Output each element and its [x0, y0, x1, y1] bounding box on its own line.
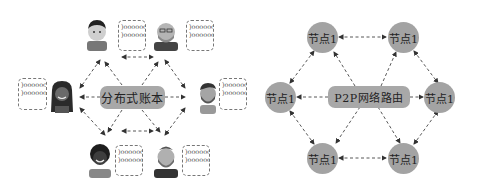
- ledger-document-right: )oooooc )oooooo(: [219, 78, 247, 110]
- network-node-top-right: 节点1: [388, 22, 419, 53]
- participant-avatar-bottom-left: [86, 142, 114, 178]
- participant-avatar-bottom-right: [151, 142, 181, 178]
- edge-right-to-bottom-right: [165, 108, 185, 135]
- ledger-document-bottom-left: )oooooc )oooooo(: [115, 145, 143, 176]
- ledger-line: )oooooo(: [21, 89, 45, 97]
- ledger-line: )oooooc: [121, 23, 144, 31]
- ledger-line: )oooooc: [118, 148, 141, 156]
- ledger-line: )oooooc: [21, 81, 45, 89]
- p2p-routing-label: P2P网络路由: [328, 86, 410, 108]
- ledger-line: )oooooo(: [185, 156, 208, 164]
- ledger-line: )oooooc: [185, 148, 208, 156]
- distributed-ledger-label: 分布式账本: [100, 86, 165, 109]
- ledger-document-top-left: )oooooc )oooooo(: [118, 20, 146, 51]
- network-node-bottom-right: 节点1: [388, 143, 419, 174]
- ledger-line: )oooooo(: [189, 31, 212, 39]
- network-node-top-left: 节点1: [307, 22, 338, 53]
- edge-top-right-to-right: [165, 60, 185, 88]
- ledger-document-left: )oooooc )oooooo(: [18, 78, 47, 110]
- edge-left-to-bottom-left: [80, 108, 105, 135]
- ledger-line: )oooooo(: [121, 31, 144, 39]
- network-node-right: 节点1: [424, 82, 455, 113]
- participant-avatar-right: [196, 80, 220, 114]
- network-node-left: 节点1: [265, 82, 296, 113]
- ledger-line: )oooooc: [222, 81, 245, 89]
- ledger-line: )oooooo(: [222, 89, 245, 97]
- ledger-line: )oooooo(: [118, 156, 141, 164]
- ledger-document-bottom-right: )oooooc )oooooo(: [182, 145, 210, 176]
- ledger-document-top-right: )oooooc )oooooo(: [186, 20, 214, 51]
- participant-avatar-top-left: [83, 17, 111, 51]
- participant-avatar-top-right: [151, 17, 181, 51]
- participant-avatar-left: [49, 80, 75, 114]
- edge-top-left-to-left: [80, 60, 100, 88]
- ledger-line: )oooooc: [189, 23, 212, 31]
- network-node-bottom-left: 节点1: [307, 143, 338, 174]
